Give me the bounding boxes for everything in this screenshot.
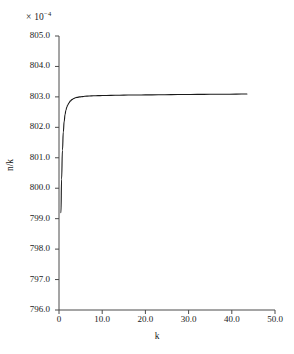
y-axis-tick-label: 802.0 bbox=[10, 121, 50, 131]
x-axis-tick-label: 40.0 bbox=[212, 314, 252, 324]
x-axis-tick-label: 0 bbox=[39, 314, 79, 324]
y-axis-tick-label: 800.0 bbox=[10, 182, 50, 192]
y-axis-tick-label: 803.0 bbox=[10, 91, 50, 101]
x-axis-tick-label: 10.0 bbox=[82, 314, 122, 324]
axis-lines bbox=[59, 36, 275, 310]
data-series-line bbox=[61, 94, 247, 213]
y-axis-multiplier-base: × 10 bbox=[26, 12, 44, 22]
y-axis-tick-label: 805.0 bbox=[10, 30, 50, 40]
plot-area bbox=[0, 0, 294, 354]
y-axis-tick-label: 799.0 bbox=[10, 213, 50, 223]
x-axis-tick-label: 20.0 bbox=[125, 314, 165, 324]
y-axis-tick-label: 798.0 bbox=[10, 243, 50, 253]
y-axis-multiplier-label: × 10−4 bbox=[26, 12, 51, 22]
y-axis-tick-label: 797.0 bbox=[10, 274, 50, 284]
y-axis-tick-label: 804.0 bbox=[10, 60, 50, 70]
y-axis-multiplier-exponent: −4 bbox=[44, 10, 51, 17]
y-axis-tick-label: 796.0 bbox=[10, 304, 50, 314]
tick-marks bbox=[55, 36, 275, 314]
x-axis-tick-label: 30.0 bbox=[169, 314, 209, 324]
chart-figure: × 10−4 n/k k 796.0797.0798.0799.0800.080… bbox=[0, 0, 294, 354]
x-axis-title: k bbox=[137, 331, 177, 341]
x-axis-tick-label: 50.0 bbox=[255, 314, 294, 324]
y-axis-tick-label: 801.0 bbox=[10, 152, 50, 162]
